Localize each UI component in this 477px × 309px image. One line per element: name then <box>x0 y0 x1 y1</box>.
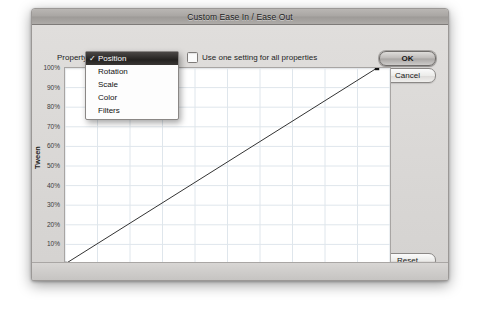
menu-item-label: Filters <box>98 106 178 115</box>
menu-item-label: Rotation <box>98 67 178 76</box>
y-axis-tick: 60% <box>47 142 60 149</box>
menu-item-position[interactable]: ✓ Position <box>86 52 178 65</box>
menu-item-rotation[interactable]: Rotation <box>86 65 178 78</box>
property-label: Property <box>57 53 87 62</box>
dialog-titlebar[interactable]: Custom Ease In / Ease Out <box>32 9 448 25</box>
use-one-setting-row[interactable]: Use one setting for all properties <box>187 52 317 63</box>
menu-item-label: Color <box>98 93 178 102</box>
dialog-title: Custom Ease In / Ease Out <box>187 12 293 22</box>
property-dropdown-menu[interactable]: ✓ Position Rotation Scale Color Fi <box>85 51 179 120</box>
y-axis-tick: 90% <box>47 83 60 90</box>
menu-item-label: Position <box>98 54 178 63</box>
y-axis-tick: 100% <box>43 64 60 71</box>
y-axis-tick: 40% <box>47 181 60 188</box>
use-one-setting-checkbox[interactable] <box>187 52 198 63</box>
custom-ease-dialog: Custom Ease In / Ease Out Property ✓ Pos… <box>31 8 449 281</box>
use-one-setting-label: Use one setting for all properties <box>202 53 317 62</box>
y-axis-tick: 30% <box>47 201 60 208</box>
menu-item-label: Scale <box>98 80 178 89</box>
y-axis-tick: 80% <box>47 103 60 110</box>
y-axis-tick: 70% <box>47 122 60 129</box>
checkmark-icon: ✓ <box>89 54 98 63</box>
y-axis-tick: 20% <box>47 220 60 227</box>
y-axis-tick: 10% <box>47 240 60 247</box>
menu-item-scale[interactable]: Scale <box>86 78 178 91</box>
y-axis-title: Tween <box>33 146 42 169</box>
dialog-body: Property ✓ Position Rotation <box>32 25 448 280</box>
ok-button[interactable]: OK <box>379 51 436 66</box>
menu-item-color[interactable]: Color <box>86 91 178 104</box>
dialog-bottom-bar <box>32 262 448 280</box>
y-axis-tick: 50% <box>47 162 60 169</box>
menu-item-filters[interactable]: Filters <box>86 104 178 117</box>
screenshot-root: Custom Ease In / Ease Out Property ✓ Pos… <box>0 0 477 309</box>
